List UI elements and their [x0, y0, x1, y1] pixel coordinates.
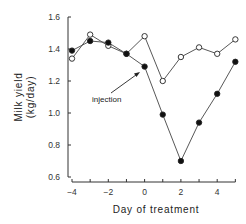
- open-circle-marker: [196, 45, 201, 50]
- open-circle-marker: [87, 32, 92, 37]
- x-tick-label: −4: [67, 187, 77, 197]
- open-circle-marker: [142, 34, 147, 39]
- milk-yield-chart: 0.60.81.01.21.41.6 −4−2024 injection Day…: [0, 0, 246, 224]
- filled-circle-marker: [124, 51, 129, 56]
- x-tick-label: 4: [215, 187, 220, 197]
- injection-arrow: [111, 74, 138, 94]
- x-axis: −4−2024: [67, 179, 235, 197]
- x-tick-label: 2: [179, 187, 184, 197]
- x-axis-title: Day of treatment: [113, 204, 200, 215]
- y-tick-label: 1.0: [48, 108, 60, 118]
- open-circle-marker: [233, 37, 238, 42]
- filled-circle-marker: [69, 48, 74, 53]
- y-tick-label: 1.6: [48, 12, 60, 22]
- y-tick-label: 0.8: [48, 140, 60, 150]
- x-tick-label: 0: [142, 187, 147, 197]
- y-axis: 0.60.81.01.21.41.6: [48, 12, 71, 182]
- open-circle-marker: [69, 56, 74, 61]
- open-circle-marker: [215, 51, 220, 56]
- filled-circle-marker: [178, 158, 183, 163]
- y-axis-title-line1: Milk yield: [13, 72, 24, 121]
- filled-circle-marker: [87, 38, 92, 43]
- x-tick-label: −2: [103, 187, 113, 197]
- annotation-layer: injection: [92, 72, 140, 104]
- injection-label: injection: [92, 95, 121, 104]
- filled-circle-marker: [233, 59, 238, 64]
- y-tick-label: 1.4: [48, 44, 60, 54]
- open-circle-marker: [178, 54, 183, 59]
- filled-circle-marker: [196, 120, 201, 125]
- y-axis-title-line2: (kg/day): [25, 76, 36, 119]
- y-tick-label: 1.2: [48, 76, 60, 86]
- y-tick-label: 0.6: [48, 172, 60, 182]
- open-circle-marker: [160, 78, 165, 83]
- filled-circle-marker: [106, 40, 111, 45]
- filled-circle-marker: [142, 64, 147, 69]
- filled-circle-marker: [160, 112, 165, 117]
- filled-circle-marker: [215, 91, 220, 96]
